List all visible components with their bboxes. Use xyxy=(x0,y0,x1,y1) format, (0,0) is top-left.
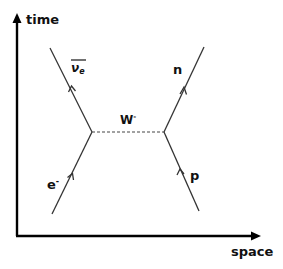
arrow-right-icon xyxy=(251,232,261,241)
time-axis xyxy=(13,13,22,236)
time-axis-label: time xyxy=(26,12,59,27)
electron-line xyxy=(52,132,92,214)
electron-label: e- xyxy=(47,177,59,192)
space-axis-label: space xyxy=(231,244,274,259)
w-boson-label: W- xyxy=(120,113,136,127)
neutron-line xyxy=(164,47,204,132)
proton-label: p xyxy=(190,168,199,183)
antineutrino-label: νe xyxy=(71,60,86,76)
neutron-label: n xyxy=(173,62,182,77)
svg-text:νe: νe xyxy=(71,61,85,76)
arrow-up-icon xyxy=(13,13,22,23)
feynman-diagram: time space e- νe W- p n xyxy=(0,0,283,269)
space-axis xyxy=(16,232,261,241)
